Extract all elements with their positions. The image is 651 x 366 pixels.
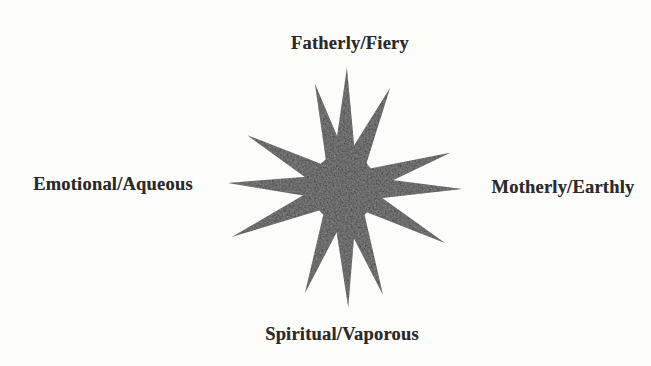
label-spiritual-vaporous: Spiritual/Vaporous — [265, 324, 419, 345]
label-fatherly-fiery: Fatherly/Fiery — [291, 33, 409, 54]
star-core — [312, 153, 376, 223]
label-motherly-earthly: Motherly/Earthly — [492, 177, 635, 198]
label-emotional-aqueous: Emotional/Aqueous — [33, 174, 193, 195]
elements-star-diagram: Fatherly/Fiery Motherly/Earthly Spiritua… — [0, 0, 651, 366]
star-rays — [228, 68, 462, 307]
